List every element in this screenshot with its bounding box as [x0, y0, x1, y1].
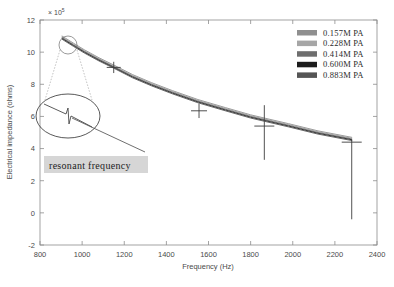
x-tick-label: 2200 — [327, 250, 344, 259]
y-tick-label: 0 — [31, 209, 35, 218]
x-tick-label: 1600 — [200, 250, 217, 259]
y-tick-label: -2 — [28, 241, 35, 250]
legend-label: 0.883M PA — [323, 70, 364, 80]
chart-canvas: 80010001200140016001800200022002400 1210… — [0, 0, 394, 287]
annotation-leader-line — [72, 118, 145, 152]
x-tick-label: 1400 — [158, 250, 175, 259]
legend-label: 0.600M PA — [323, 59, 364, 69]
x-tick-label: 1200 — [116, 250, 133, 259]
legend-swatch — [297, 30, 317, 36]
annotation-resonant-frequency: resonant frequency — [44, 156, 148, 173]
y-tick-label: 4 — [31, 144, 35, 153]
legend: 0.157M PA0.228M PA0.414M PA0.600M PA0.88… — [297, 28, 364, 80]
magnifier-connector-lines — [45, 50, 92, 100]
legend-swatch — [297, 41, 317, 47]
error-bars-group — [107, 62, 362, 220]
y-axis-exponent: × 105 — [48, 7, 65, 16]
x-tick-label: 1800 — [242, 250, 259, 259]
y-tick-label: 2 — [31, 177, 35, 186]
legend-swatch — [297, 72, 317, 78]
legend-label: 0.228M PA — [323, 38, 364, 48]
x-tick-label: 1000 — [74, 250, 91, 259]
x-tick-label: 2000 — [284, 250, 301, 259]
legend-swatch — [297, 51, 317, 57]
chart-figure: 80010001200140016001800200022002400 1210… — [0, 0, 394, 287]
x-axis-title: Frequency (Hz) — [182, 262, 234, 271]
magnifier-inset-ellipse — [36, 94, 100, 138]
annotation-label: resonant frequency — [49, 160, 131, 171]
y-tick-label: 6 — [31, 112, 35, 121]
y-tick-label: 8 — [31, 80, 35, 89]
x-tick-label: 800 — [34, 250, 47, 259]
legend-label: 0.157M PA — [323, 28, 364, 38]
y-tick-label: 12 — [27, 16, 35, 25]
x-tick-label: 2400 — [369, 250, 386, 259]
legend-swatch — [297, 62, 317, 68]
legend-label: 0.414M PA — [323, 49, 364, 59]
y-axis-title: Electrical impedance (ohms) — [5, 84, 14, 179]
y-tick-label: 10 — [27, 48, 35, 57]
